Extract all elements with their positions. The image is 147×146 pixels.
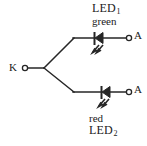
led1-emission-arrows [92,45,103,53]
led2-emission-arrows [98,99,109,107]
led1-label-subscript: 1 [116,7,120,16]
anode-terminal-bottom-label: A [134,84,142,95]
led1-color-label: green [92,16,116,27]
led-schematic-diagram: LED1 green red LED2 K A A [0,0,147,146]
wire-branch-top-diagonal [44,38,74,68]
terminal-a-bottom-circle[interactable] [126,89,131,94]
schematic-canvas [0,0,147,146]
led1-label: LED1 [92,2,120,14]
cathode-terminal-label: K [9,62,17,73]
led1-anode-triangle [95,33,103,44]
led2-anode-triangle [102,87,110,98]
terminal-a-top-circle[interactable] [126,35,131,40]
led2-label-text: LED [89,123,113,137]
terminal-k-circle[interactable] [22,65,27,70]
led1-label-text: LED [92,1,116,15]
led2-label-subscript: 2 [113,129,117,138]
led2-symbol [98,86,110,107]
led2-label: LED2 [89,124,117,136]
wire-branch-bottom-diagonal [44,68,74,92]
led1-symbol [92,32,103,53]
anode-terminal-top-label: A [134,30,142,41]
